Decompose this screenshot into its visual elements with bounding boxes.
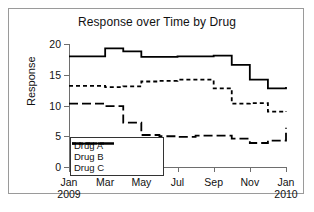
x-tick-label: Jan2010	[274, 176, 297, 200]
series-line-drug-b	[69, 80, 286, 112]
legend-key-drug-c	[71, 138, 115, 149]
x-tick-label: May	[131, 176, 151, 188]
x-tick	[286, 167, 287, 172]
x-tick-label: Jan2009	[57, 176, 80, 200]
legend-item: Drug B	[74, 151, 160, 162]
plot-area: 05101520 Jan2009MarMayJulSepNovJan2010 D…	[69, 44, 286, 168]
y-tick-label: 5	[55, 130, 61, 142]
legend-item: Drug C	[74, 162, 160, 173]
series-line-drug-a	[69, 48, 286, 88]
x-tick-label: Nov	[240, 176, 259, 188]
chart-frame: Response over Time by Drug Response 0510…	[8, 8, 304, 194]
x-tick-label: Sep	[204, 176, 223, 188]
x-tick-label: Mar	[96, 176, 114, 188]
legend-label-drug-c: Drug C	[74, 162, 104, 173]
y-tick-label: 15	[49, 69, 61, 81]
legend-label-drug-b: Drug B	[74, 151, 104, 162]
y-axis-label: Response	[25, 56, 37, 106]
y-tick-label: 10	[49, 100, 61, 112]
x-tick-label: Jul	[171, 176, 184, 188]
chart-title: Response over Time by Drug	[9, 15, 305, 29]
y-tick-label: 0	[55, 161, 61, 173]
y-tick-label: 20	[49, 38, 61, 50]
chart-legend: Drug A Drug B Drug C	[70, 137, 164, 176]
